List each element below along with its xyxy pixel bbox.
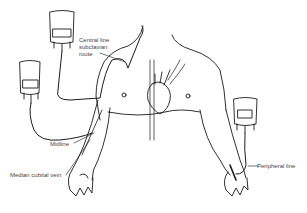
iv-bag-midline-icon [20, 61, 92, 141]
right-arm-outline [200, 110, 248, 196]
midline-leader [74, 133, 94, 143]
peripheral-line-label: Peripheral line [257, 163, 295, 170]
heart-icon [148, 60, 186, 140]
iv-access-diagram: Central line subclavian route Midline Me… [0, 0, 307, 213]
midline-label: Midline [50, 141, 69, 148]
iv-bag-peripheral-icon [234, 98, 257, 175]
median-cubital-vein-label: Median cubital vein [10, 172, 61, 179]
central-line-label: Central line subclavian route [79, 37, 109, 58]
left-arm-outline [68, 100, 110, 196]
torso-outline [96, 26, 226, 120]
median-cubital-leader [66, 140, 90, 175]
